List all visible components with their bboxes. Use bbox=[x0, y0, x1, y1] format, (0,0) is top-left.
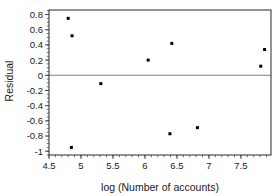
data-point bbox=[99, 82, 102, 85]
x-axis-title: log (Number of accounts) bbox=[101, 181, 219, 193]
data-point bbox=[168, 132, 171, 135]
y-tick-label: -0.2 bbox=[27, 85, 43, 96]
data-point bbox=[67, 17, 70, 20]
plot-canvas: 4.555.566.577.5 0.80.60.40.20-0.2-0.4-0.… bbox=[0, 0, 279, 196]
x-tick-label: 6 bbox=[142, 160, 147, 171]
y-tick-label: 0.8 bbox=[30, 9, 43, 20]
y-tick-label: 0.4 bbox=[30, 39, 43, 50]
x-tick-label: 7 bbox=[206, 160, 211, 171]
x-tick-label: 4.5 bbox=[42, 160, 55, 171]
y-tick-label: 0.2 bbox=[30, 55, 43, 66]
y-tick-label: -0.8 bbox=[27, 130, 43, 141]
data-point bbox=[71, 34, 74, 37]
y-axis-title: Residual bbox=[3, 61, 15, 102]
residual-scatter-plot: 4.555.566.577.5 0.80.60.40.20-0.2-0.4-0.… bbox=[0, 0, 279, 196]
y-tick-label: -0.6 bbox=[27, 115, 43, 126]
x-tick-label: 7.5 bbox=[234, 160, 247, 171]
y-tick-label: -1 bbox=[35, 146, 43, 157]
y-tick-label: -0.4 bbox=[27, 100, 43, 111]
data-point bbox=[170, 42, 173, 45]
data-point bbox=[70, 146, 73, 149]
data-point bbox=[147, 59, 150, 62]
data-point bbox=[263, 48, 266, 51]
data-point bbox=[196, 126, 199, 129]
x-tick-label: 5 bbox=[78, 160, 83, 171]
x-tick-label: 5.5 bbox=[106, 160, 119, 171]
x-tick-label: 6.5 bbox=[170, 160, 183, 171]
y-tick-label: 0 bbox=[38, 70, 43, 81]
y-tick-label: 0.6 bbox=[30, 24, 43, 35]
data-point bbox=[259, 65, 262, 68]
